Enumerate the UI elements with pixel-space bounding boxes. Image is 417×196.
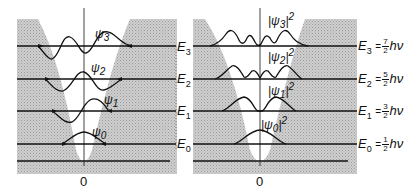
left-e0-label: E0 [177,137,191,154]
psi3-label: ψ3 [95,28,109,43]
psi0-label: ψ0 [92,126,106,141]
left-e1-label: E1 [177,104,191,121]
right-e3-label: E3 =72hν [358,38,403,56]
psi0-squared-label: |ψ0|2 [261,116,287,134]
right-e0-label: E0 =12hν [358,136,403,154]
diagram-graphics [0,0,417,196]
psi3-squared-label: |ψ3|2 [268,12,294,30]
psi1-label: ψ1 [104,94,118,109]
left-e3-label: E3 [177,40,191,57]
psi2-squared-label: |ψ2|2 [268,48,294,66]
left-e2-label: E2 [177,72,191,89]
psi2-label: ψ2 [91,62,105,77]
right-origin-label: 0 [256,174,263,189]
harmonic-oscillator-diagram: ψ3 ψ2 ψ1 ψ0 E3 E2 E1 E0 0 |ψ3|2 |ψ2|2 |ψ… [0,0,417,196]
psi1-squared-label: |ψ1|2 [268,82,294,100]
left-origin-label: 0 [80,174,87,189]
right-e2-label: E2 =52hν [358,71,403,89]
right-e1-label: E1 =32hν [358,103,403,121]
